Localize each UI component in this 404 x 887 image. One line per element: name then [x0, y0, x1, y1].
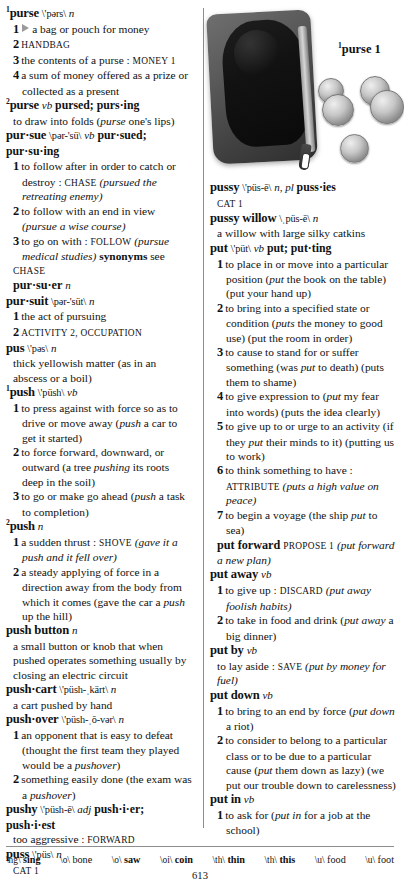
headword: 2push: [6, 519, 35, 533]
sense-line: 7to begin a voyage (the ship put to sea): [217, 508, 396, 538]
entry-pus: pus \'pəs\ n thick yellowish matter (as …: [6, 341, 192, 385]
sense-line: 5to give up to or urge to an activity (i…: [217, 419, 396, 463]
inflected-forms: pursed; purs·ing: [55, 98, 139, 112]
sense-line: 2to consider to belong to a particular c…: [217, 733, 396, 792]
entry-put-in: put in vb 1to ask for (put in for a job …: [210, 792, 396, 838]
page-number: 613: [0, 870, 400, 881]
part-of-speech: vb: [84, 129, 94, 141]
headword: pushy: [6, 802, 37, 816]
headword: push·over: [6, 712, 59, 726]
part-of-speech: vb: [262, 689, 272, 701]
zipper-pull-icon: [298, 143, 312, 170]
cross-reference-line: CAT 1: [217, 196, 396, 211]
run-on-entry: pur·su·er n: [13, 278, 192, 293]
sense-line: 1to ask for (put in for a job at the sch…: [217, 808, 396, 838]
sense-line: 1to press against with force so as to dr…: [13, 401, 192, 445]
right-column: pussy \'püs-ē\ n, pl puss·ies CAT 1 puss…: [210, 180, 396, 838]
headword: pussy: [210, 180, 239, 194]
sense-line: 1a sudden thrust : SHOVE (gave it a push…: [13, 535, 192, 565]
part-of-speech: n: [51, 342, 57, 354]
part-of-speech: vb: [254, 242, 264, 254]
entry-put: put \'püt\ vb put; put·ting 1to place in…: [210, 241, 396, 538]
entry-put-away: put away vb 1to give up : DISCARD (put a…: [210, 567, 396, 643]
cross-reference: FORWARD: [87, 835, 134, 845]
headword: put away: [210, 567, 258, 581]
definition-line: a small button or knob that when pushed …: [13, 639, 192, 682]
entry-purse-2: 2purse vb pursed; purs·ing to draw into …: [6, 98, 192, 128]
part-of-speech: vb: [42, 99, 52, 111]
pronunciation: \'püsh-ˌkärt\: [59, 684, 108, 695]
entry-put-down: put down vb 1to bring to an end by force…: [210, 688, 396, 792]
entry-push-1: 1push \'püsh\ vb 1to press against with …: [6, 385, 192, 519]
part-of-speech: n: [38, 520, 44, 532]
entry-pussy: pussy \'püs-ē\ n, pl puss·ies CAT 1: [210, 180, 396, 211]
pronunciation: \'püsh-ē\: [40, 804, 74, 815]
footer-divider: [6, 846, 394, 847]
sense-line: 1an opponent that is easy to defeat (tho…: [13, 728, 192, 772]
part-of-speech: adj: [77, 803, 91, 815]
pronunciation: \ˌpüs-ē\: [279, 213, 310, 224]
sense-line: 2ACTIVITY 2, OCCUPATION: [13, 325, 192, 341]
part-of-speech: n: [111, 683, 117, 695]
entry-pursuit: pur·suit \pər-'süt\ n 1the act of pursui…: [6, 294, 192, 341]
part-of-speech: vb: [261, 568, 271, 580]
cross-reference: ACTIVITY 2, OCCUPATION: [21, 328, 142, 338]
headword: pur·sue: [6, 128, 46, 142]
pronunciation: \'pərs\: [42, 8, 66, 19]
sense-line: 4a sum of money offered as a prize or co…: [13, 68, 192, 98]
cross-reference: HANDBAG: [21, 40, 70, 50]
synonyms-label: synonyms: [99, 250, 147, 262]
entry-pushover: push·over \'püsh-ˌō-vər\ n 1an opponent …: [6, 712, 192, 802]
entry-pushcart: push·cart \'püsh-ˌkärt\ n a cart pushed …: [6, 682, 192, 712]
sense-line: 3to go or make go ahead (push a task to …: [13, 489, 192, 519]
headword: put down: [210, 688, 260, 702]
cross-reference: SHOVE: [99, 538, 132, 548]
cross-reference: SAVE: [278, 662, 302, 672]
entry-pussy-willow: pussy willow \ˌpüs-ē\ n a willow with la…: [210, 211, 396, 241]
sense-line: 3the contents of a purse : MONEY 1: [13, 53, 192, 69]
sense-line: 3to cause to stand for or suffer somethi…: [217, 345, 396, 389]
headword: 1push: [6, 385, 35, 399]
coin: [340, 134, 369, 163]
sense-line: 1the act of pursuing: [13, 309, 192, 325]
part-of-speech: vb: [247, 644, 257, 656]
cross-reference-line: CHASE: [13, 263, 192, 278]
pronunciation: \'püs-ē\: [242, 182, 271, 193]
entry-purse-1: 1purse \'pərs\ n 1a bag or pouch for mon…: [6, 6, 192, 98]
sense-line: 1to follow after in order to catch or de…: [13, 159, 192, 204]
headword: pus: [6, 341, 24, 355]
entry-pushy: pushy \'püsh-ē\ adj push·i·er; push·i·es…: [6, 802, 192, 847]
sense-line: 4to give expression to (put my fear into…: [217, 389, 396, 419]
part-of-speech: n: [89, 295, 95, 307]
entry-push-2: 2push n 1a sudden thrust : SHOVE (gave i…: [6, 519, 192, 623]
inflected-forms: puss·ies: [297, 180, 336, 194]
pronunciation: \'püt\: [231, 243, 251, 254]
pron-key-item: \u\ food: [315, 854, 346, 865]
purse-photo: [208, 6, 332, 174]
coin: [370, 90, 404, 124]
pronunciation: \'pəs\: [27, 343, 48, 354]
headword: put in: [210, 792, 241, 806]
sense-line: 2to bring into a specified state or cond…: [217, 301, 396, 345]
headword: put: [210, 241, 228, 255]
sense-line: 2something easily done (the exam was a p…: [13, 772, 192, 802]
cross-reference: FOLLOW: [91, 237, 132, 247]
headword: pussy willow: [210, 211, 276, 225]
sense-line: 2HANDBAG: [13, 37, 192, 53]
usage-example: (pursue a wise course): [22, 220, 125, 232]
pron-key-item: \th\ thin: [212, 854, 244, 865]
sense-line: 6to think something to have : ATTRIBUTE …: [217, 463, 396, 508]
sense-line: 3to go on with : FOLLOW (pursue medical …: [13, 234, 192, 264]
sense-line: 2to take in food and drink (put away a b…: [217, 613, 396, 643]
column-divider: [203, 8, 204, 828]
pronunciation: \'püsh-ˌō-vər\: [61, 714, 115, 725]
definition-line: to draw into folds (purse one's lips): [13, 114, 192, 128]
sense-line: 2to force forward, downward, or outward …: [13, 445, 192, 489]
pointer-arrow-icon: [22, 24, 29, 32]
part-of-speech: n: [313, 212, 319, 224]
entry-push-button: push button n a small button or knob tha…: [6, 623, 192, 682]
definition-line: thick yellowish matter (as in an abscess…: [13, 356, 192, 385]
illustration-caption: 1purse 1: [338, 42, 381, 57]
inflected-forms: put; put·ting: [267, 241, 332, 255]
